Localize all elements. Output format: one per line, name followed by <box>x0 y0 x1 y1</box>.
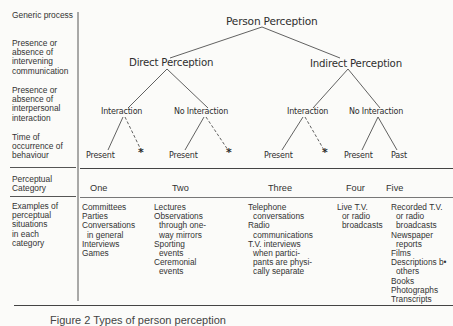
row-label-time: Time of occurrence of behaviour <box>12 133 63 161</box>
node-direct-perception: Direct Perception <box>129 57 213 68</box>
node-indirect-perception: Indirect Perception <box>310 58 402 69</box>
figure-caption: Figure 2 Types of person perception <box>50 314 226 326</box>
node-direct-interaction: Interaction <box>101 107 142 116</box>
divider-bottom <box>14 305 453 306</box>
example-item: events <box>154 267 206 276</box>
examples-two: Lectures Observations through one- way m… <box>154 203 206 277</box>
example-item: Transcripts <box>391 295 446 304</box>
row-label-examples: Examples of perceptual situations in eac… <box>12 202 58 248</box>
leaf-indirect-interaction-present: Present <box>264 151 293 160</box>
node-indirect-interaction: Interaction <box>287 107 328 116</box>
row-label-generic-process: Generic process <box>12 11 73 20</box>
row-label-communication: Presence or absence of intervening commu… <box>12 39 68 76</box>
divider-left-category <box>10 196 76 197</box>
row-label-category: Perceptual Category <box>12 175 52 193</box>
label-line: interaction <box>12 114 60 123</box>
label-line: behaviour <box>12 151 63 160</box>
label-line: category <box>12 239 58 248</box>
example-item: Games <box>82 249 135 258</box>
leaf-indirect-no-interaction-present: Present <box>344 151 373 160</box>
category-one: One <box>90 183 107 193</box>
examples-four: Live T.V. or radio broadcasts <box>337 203 383 231</box>
divider-main-time <box>80 168 453 169</box>
star-icon: * <box>322 146 328 159</box>
examples-three: Telephone conversations Radio communicat… <box>248 203 313 277</box>
example-item: broadcasts <box>337 221 383 230</box>
category-two: Two <box>172 183 189 193</box>
examples-five: Recorded T.V. or radio broadcasts Newspa… <box>391 203 446 304</box>
star-icon: * <box>226 146 232 159</box>
node-person-perception: Person Perception <box>226 15 318 27</box>
category-five: Five <box>386 183 403 193</box>
divider-left-time <box>10 167 76 168</box>
category-four: Four <box>346 183 365 193</box>
node-indirect-no-interaction: No Interaction <box>349 107 403 116</box>
examples-one: Committees Parties Conversations in gene… <box>82 203 135 258</box>
row-label-interpersonal: Presence or absence of interpersonal int… <box>12 86 60 123</box>
star-icon: * <box>138 146 144 159</box>
leaf-direct-interaction-present: Present <box>86 151 115 160</box>
divider-main-category <box>80 197 453 198</box>
example-item: cally separate <box>248 267 313 276</box>
node-direct-no-interaction: No Interaction <box>174 107 228 116</box>
category-three: Three <box>268 183 292 193</box>
label-line: communication <box>12 67 68 76</box>
leaf-direct-no-interaction-present: Present <box>169 151 198 160</box>
leaf-indirect-no-interaction-past: Past <box>391 151 407 160</box>
label-line: Category <box>12 184 52 193</box>
